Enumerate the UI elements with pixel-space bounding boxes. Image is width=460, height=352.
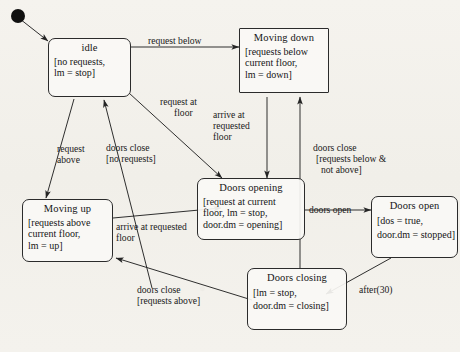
transition-label-request-above-line-1: request: [57, 143, 85, 154]
state-moving-up-body: [requests above current floor, lm = up]: [28, 217, 107, 251]
state-doors-closing-body-line-2: door.dm = closing]: [253, 300, 329, 311]
initial-state-marker: [11, 9, 25, 23]
transition-label-after-30-line-1: after(30): [359, 284, 393, 295]
transition-label-doors-close-below-line-2: [requests below &: [313, 153, 386, 164]
transition-label-doors-close-no-requests-line-1: doors close: [106, 142, 156, 153]
state-moving-down[interactable]: Moving down [requests below current floo…: [239, 28, 329, 93]
transition-label-arrive-up-line-2: floor: [116, 232, 187, 243]
state-moving-up-body-line-3: lm = up]: [28, 240, 63, 251]
state-doors-opening-body: [request at current floor, lm = stop, do…: [203, 196, 299, 230]
state-doors-open-title: Doors open: [377, 200, 452, 212]
transition-label-arrive-down-line-2: requested: [213, 120, 250, 131]
transition-label-doors-open-line-1: doors open: [309, 204, 351, 215]
state-moving-down-body-line-1: [requests below: [245, 46, 308, 57]
state-idle-body: [no requests, lm = stop]: [54, 56, 125, 79]
state-idle-title: idle: [54, 42, 125, 54]
state-moving-up-title: Moving up: [28, 203, 107, 215]
transition-label-doors-close-below-line-1: doors close: [313, 142, 386, 153]
transition-label-doors-close-no-requests: doors close [no requests]: [106, 142, 156, 164]
state-diagram: idle [no requests, lm = stop] Moving dow…: [0, 0, 460, 352]
transition-label-arrive-at-requested-floor-up: arrive at requested floor: [116, 221, 187, 243]
state-doors-opening[interactable]: Doors opening [request at current floor,…: [197, 178, 305, 240]
transition-label-request-below: request below: [148, 35, 202, 46]
state-idle-body-line-2: lm = stop]: [54, 67, 95, 78]
state-moving-up-body-line-2: current floor,: [28, 228, 80, 239]
state-moving-down-body: [requests below current floor, lm = down…: [245, 46, 323, 80]
transition-label-after-30: after(30): [359, 284, 393, 295]
state-doors-closing-title: Doors closing: [253, 272, 341, 284]
transition-label-request-at-floor-line-2: floor: [160, 107, 197, 118]
transition-label-doors-close-above-line-2: [requests above]: [137, 295, 200, 306]
state-moving-up[interactable]: Moving up [requests above current floor,…: [22, 199, 113, 262]
state-doors-opening-title: Doors opening: [203, 182, 299, 194]
state-moving-down-body-line-2: current floor,: [245, 57, 297, 68]
transition-label-doors-close-below-line-3: not above]: [313, 164, 386, 175]
state-doors-closing-body: [lm = stop, door.dm = closing]: [253, 286, 341, 312]
transition-label-request-below-line-1: request below: [148, 35, 202, 46]
state-idle[interactable]: idle [no requests, lm = stop]: [48, 38, 131, 97]
transition-label-arrive-at-requested-floor-down: arrive at requested floor: [213, 109, 250, 142]
transition-label-doors-close-requests-below: doors close [requests below & not above]: [313, 142, 386, 175]
state-idle-body-line-1: [no requests,: [54, 56, 105, 67]
transition-label-doors-close-requests-above: doors close [requests above]: [137, 284, 200, 306]
state-doors-opening-body-line-2: floor, lm = stop,: [203, 207, 267, 218]
state-doors-open-body: [dos = true, door.dm = stopped]: [377, 214, 452, 242]
transition-label-arrive-down-line-3: floor: [213, 131, 250, 142]
edge-initial-to-idle: [20, 19, 48, 41]
state-moving-down-title: Moving down: [245, 32, 323, 44]
state-doors-closing[interactable]: Doors closing [lm = stop, door.dm = clos…: [247, 268, 347, 330]
edge-doors-closing-to-idle: [104, 100, 152, 288]
state-doors-open-body-line-1: [dos = true,: [377, 215, 423, 226]
state-doors-opening-body-line-1: [request at current: [203, 196, 276, 207]
transition-label-doors-close-above-line-1: doors close: [137, 284, 200, 295]
state-doors-closing-body-line-1: [lm = stop,: [253, 287, 297, 298]
state-doors-open-body-line-2: door.dm = stopped]: [377, 229, 455, 240]
transition-label-request-at-floor: request at floor: [160, 96, 197, 118]
state-doors-open[interactable]: Doors open [dos = true, door.dm = stoppe…: [371, 196, 458, 258]
state-moving-up-body-line-1: [requests above: [28, 217, 90, 228]
transition-label-doors-open: doors open: [309, 204, 351, 215]
transition-label-arrive-up-line-1: arrive at requested: [116, 221, 187, 232]
transition-label-request-at-floor-line-1: request at: [160, 96, 197, 107]
transition-label-request-above-line-2: above: [57, 154, 85, 165]
state-doors-opening-body-line-3: door.dm = opening]: [203, 219, 282, 230]
transition-label-request-above: request above: [57, 143, 85, 165]
transition-label-arrive-down-line-1: arrive at: [213, 109, 250, 120]
transition-label-doors-close-no-requests-line-2: [no requests]: [106, 153, 156, 164]
state-moving-down-body-line-3: lm = down]: [245, 69, 292, 80]
